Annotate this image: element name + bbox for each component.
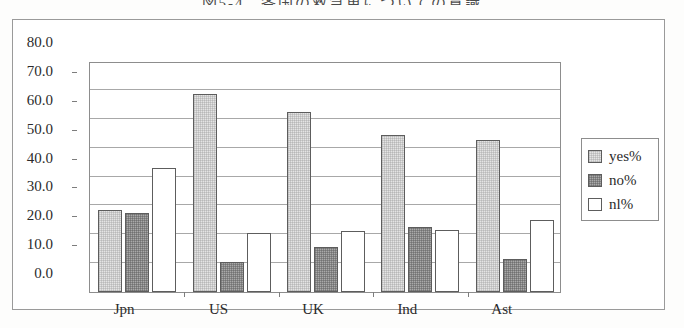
y-axis-tick-label: 20.0 [0,208,53,223]
chart-outer-frame: 80.070.060.050.040.030.020.010.00.0 JpnU… [12,19,665,310]
y-axis-tick-label: 10.0 [0,237,53,252]
bar-no-uk [314,247,338,292]
bar-no-ind [408,227,432,292]
legend-swatch-yes [588,150,602,163]
y-axis-tick-label: 50.0 [0,122,53,137]
figure-title: 図5-4 各国の救急車についての意識 [0,0,684,5]
chart-legend: yes%no%nl% [581,138,659,221]
y-axis-tick-mark [72,101,77,102]
legend-swatch-nl [588,198,602,211]
bar-no-jpn [125,213,149,292]
gridline [90,89,560,90]
bar-nl-ind [435,230,459,292]
legend-item-no: no% [588,168,658,192]
y-axis-tick-label: 70.0 [0,64,53,79]
y-axis-tick-label: 80.0 [0,35,53,50]
bar-no-ast [503,259,527,292]
bar-yes-us [193,94,217,292]
legend-item-nl: nl% [588,192,658,216]
bar-nl-jpn [152,168,176,292]
x-axis-label-ast: Ast [455,301,549,317]
bar-yes-ast [476,140,500,292]
gridline [90,118,560,119]
y-axis-tick-mark [72,216,77,217]
figure-page: 図5-4 各国の救急車についての意識 80.070.060.050.040.03… [0,0,684,328]
bar-nl-ast [530,220,554,292]
bar-yes-uk [287,112,311,292]
legend-item-yes: yes% [588,144,658,168]
y-axis-tick-label: 30.0 [0,179,53,194]
legend-label-no: no% [609,173,637,188]
plot-area [89,62,561,293]
x-axis-label-jpn: Jpn [77,301,171,317]
x-axis-tick-mark [373,292,374,297]
bar-yes-ind [381,135,405,292]
x-axis-tick-mark [184,292,185,297]
x-axis-label-uk: UK [266,301,360,317]
x-axis-tick-mark [279,292,280,297]
y-axis-tick-mark [72,245,77,246]
x-axis-label-ind: Ind [360,301,454,317]
bar-yes-jpn [98,210,122,292]
y-axis-tick-label: 60.0 [0,93,53,108]
y-axis-tick-mark [72,159,77,160]
legend-label-yes: yes% [609,149,642,164]
y-axis-tick-mark [72,72,77,73]
bar-nl-us [247,233,271,292]
bar-nl-uk [341,231,365,292]
y-axis-tick-label: 40.0 [0,151,53,166]
x-axis-tick-mark [468,292,469,297]
y-axis-tick-mark [72,187,77,188]
legend-label-nl: nl% [609,197,633,212]
legend-swatch-no [588,174,602,187]
y-axis-tick-label: 0.0 [0,266,53,281]
y-axis-tick-mark [72,130,77,131]
bar-no-us [220,262,244,292]
x-axis-label-us: US [171,301,265,317]
